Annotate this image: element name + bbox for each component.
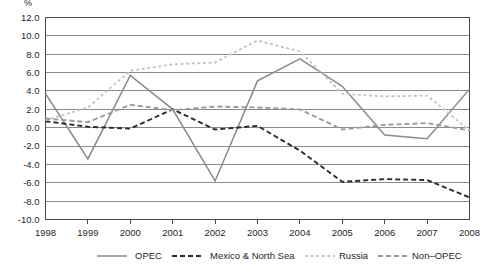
- legend-label-mexico-north-sea: Mexico & North Sea: [210, 250, 295, 261]
- series-line-mexico-north-sea: [46, 109, 470, 197]
- y-axis-tick-label: 8.0: [26, 49, 39, 60]
- chart-container: % 12.010.08.06.04.02.00.0-2.0-4.0-6.0-8.…: [0, 0, 490, 276]
- x-axis-tick-label: 2007: [417, 227, 438, 238]
- x-axis-tick-label: 2004: [289, 227, 310, 238]
- y-axis-tick-label: 10.0: [21, 30, 40, 41]
- line-chart-svg: 12.010.08.06.04.02.00.0-2.0-4.0-6.0-8.0-…: [0, 0, 490, 276]
- y-axis-tick-label: -4.0: [23, 159, 39, 170]
- x-axis-ticks: 1998199920002001200220032004200520062007…: [35, 220, 480, 238]
- y-axis-tick-label: 0.0: [26, 122, 39, 133]
- x-axis-tick-label: 2006: [374, 227, 395, 238]
- x-axis-tick-label: 2003: [247, 227, 268, 238]
- x-axis-tick-label: 2001: [162, 227, 183, 238]
- y-axis-tick-label: 6.0: [26, 67, 39, 78]
- y-axis-tick-label: 4.0: [26, 85, 39, 96]
- x-axis-tick-label: 2008: [459, 227, 480, 238]
- y-axis-tick-label: -10.0: [18, 214, 40, 225]
- chart-legend: OPECMexico & North SeaRussiaNon–OPEC: [97, 250, 462, 261]
- legend-label-opec: OPEC: [135, 250, 162, 261]
- x-axis-tick-label: 2002: [205, 227, 226, 238]
- y-axis-tick-label: 12.0: [21, 12, 40, 23]
- x-axis-tick-label: 1998: [35, 227, 56, 238]
- x-axis-tick-label: 1999: [77, 227, 98, 238]
- x-axis-tick-label: 2000: [120, 227, 141, 238]
- series-line-opec: [46, 59, 470, 181]
- y-axis-tick-label: -6.0: [23, 177, 39, 188]
- x-axis-tick-label: 2005: [332, 227, 353, 238]
- y-axis-tick-label: -8.0: [23, 196, 39, 207]
- y-axis-tick-label: 2.0: [26, 104, 39, 115]
- y-axis-ticks: 12.010.08.06.04.02.00.0-2.0-4.0-6.0-8.0-…: [18, 12, 40, 225]
- y-axis-tick-label: -2.0: [23, 140, 39, 151]
- legend-label-russia: Russia: [339, 250, 369, 261]
- legend-label-non-opec: Non–OPEC: [412, 250, 462, 261]
- data-series: [46, 40, 470, 197]
